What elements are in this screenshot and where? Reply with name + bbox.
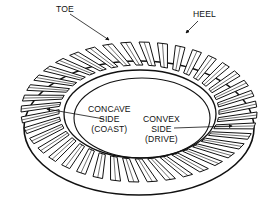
ring-gear-drawing bbox=[0, 0, 278, 223]
heel-label: HEEL bbox=[193, 9, 216, 19]
convex-side-label: CONVEX SIDE (DRIVE) bbox=[143, 114, 180, 144]
concave-side-label: CONCAVE SIDE (COAST) bbox=[88, 104, 131, 134]
toe-label: TOE bbox=[56, 4, 74, 14]
heel-leader bbox=[186, 21, 198, 33]
toe-leader bbox=[70, 14, 109, 40]
ring-gear-diagram: TOE HEEL CONCAVE SIDE (COAST) CONVEX SID… bbox=[0, 0, 278, 223]
